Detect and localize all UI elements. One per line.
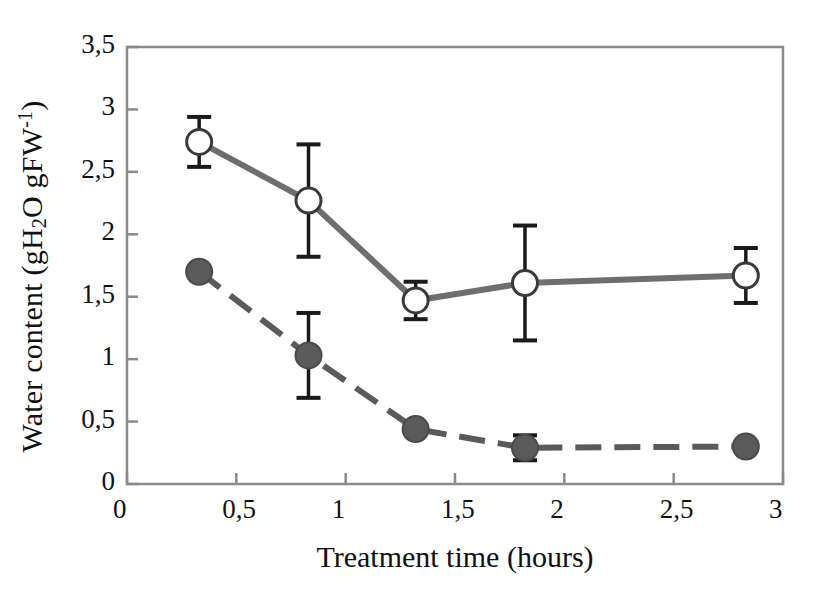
y-axis-tick-label: 2,5 xyxy=(81,154,115,185)
data-point-filled-circle xyxy=(733,434,759,460)
data-point-filled-circle xyxy=(186,259,212,285)
y-axis-tick-label: 0 xyxy=(102,466,116,497)
y-axis-tick-label: 2 xyxy=(102,216,116,247)
data-point-filled-circle xyxy=(295,342,321,368)
y-axis-tick-label: 1 xyxy=(102,341,116,372)
chart-figure: Water content (gH2O gFW-1) Treatment tim… xyxy=(0,0,817,604)
series-line-filled-circle-series xyxy=(199,272,746,448)
y-axis-tick-label: 1,5 xyxy=(81,279,115,310)
data-point-open-circle xyxy=(403,288,428,313)
data-point-filled-circle xyxy=(512,435,538,461)
data-point-open-circle xyxy=(187,129,212,154)
data-point-open-circle xyxy=(296,188,321,213)
series-line-open-circle-series xyxy=(199,142,746,301)
y-axis-tick-label: 0,5 xyxy=(81,404,115,435)
data-point-filled-circle xyxy=(403,416,429,442)
data-point-open-circle xyxy=(512,270,537,295)
data-point-open-circle xyxy=(733,263,758,288)
plot-frame xyxy=(127,47,783,484)
x-axis-tick-label: 3 xyxy=(0,494,817,525)
y-axis-tick-label: 3 xyxy=(102,91,116,122)
y-axis-tick-label: 3,5 xyxy=(81,29,115,60)
